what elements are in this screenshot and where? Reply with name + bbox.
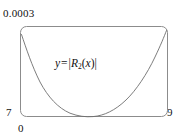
graph-figure: 0.0003 7 0 9 y=|R2(x)|	[0, 0, 181, 139]
curve-equation-label: y=|R2(x)|	[55, 58, 97, 70]
equation-abs-close: |	[95, 57, 97, 69]
equation-relation: =	[60, 57, 69, 69]
equation-function-name: R	[71, 57, 78, 69]
plot-frame	[21, 27, 168, 117]
